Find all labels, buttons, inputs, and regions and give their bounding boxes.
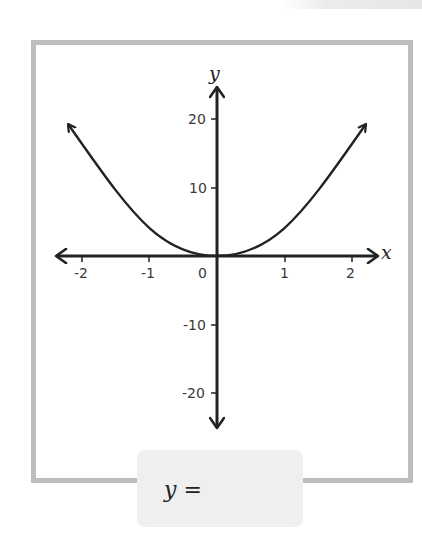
parabola-curve bbox=[217, 124, 366, 256]
y-tick-label: -10 bbox=[183, 318, 206, 332]
y-tick-label: 10 bbox=[189, 181, 207, 195]
y-tick-label: 20 bbox=[188, 112, 206, 126]
answer-label: y = bbox=[164, 477, 202, 502]
x-tick-label: 1 bbox=[280, 266, 289, 280]
x-tick-label: -1 bbox=[141, 266, 155, 280]
x-axis-label: x bbox=[381, 243, 392, 262]
x-tick-label: -2 bbox=[74, 266, 88, 280]
answer-box[interactable]: y = bbox=[137, 450, 303, 527]
answer-variable: y bbox=[164, 477, 176, 502]
x-tick-label: 2 bbox=[346, 266, 355, 280]
y-axis-label: y bbox=[209, 64, 220, 83]
y-tick-label: -20 bbox=[182, 386, 205, 400]
answer-operator: = bbox=[183, 477, 201, 502]
origin-label: 0 bbox=[198, 266, 207, 280]
